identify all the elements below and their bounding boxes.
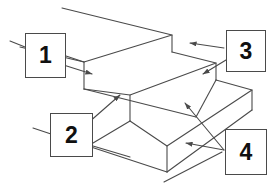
leader-stub-2 xyxy=(33,128,51,134)
second-step-top-face xyxy=(84,52,216,95)
callout-label-2: 2 xyxy=(65,124,78,147)
second-step-riser-right xyxy=(196,80,216,117)
leader-connector-1 xyxy=(66,56,84,62)
top-step-front-face xyxy=(84,89,196,117)
callout-box-3[interactable]: 3 xyxy=(226,30,266,72)
callout-box-4[interactable]: 4 xyxy=(225,129,267,175)
bottom-step-front-face-left xyxy=(88,121,167,172)
callout-label-3: 3 xyxy=(240,40,253,63)
callout-label-1: 1 xyxy=(39,44,52,67)
diagram-canvas: 1 2 3 4 xyxy=(0,0,280,183)
leader-connector-2 xyxy=(93,146,130,157)
callout-label-4: 4 xyxy=(240,141,253,164)
leader-stub-1 xyxy=(10,41,25,47)
leader-arrow-3a xyxy=(190,43,224,48)
leader-arrow-4a xyxy=(185,103,224,150)
callout-box-2[interactable]: 2 xyxy=(50,113,93,157)
callout-box-1[interactable]: 1 xyxy=(25,33,66,78)
leader-connector-4 xyxy=(164,152,222,182)
